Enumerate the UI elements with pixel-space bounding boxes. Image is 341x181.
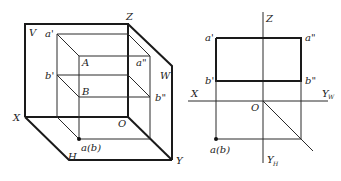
label-W: W (160, 70, 171, 81)
label-b-prime: b' (45, 70, 54, 81)
point-ab-right (214, 137, 218, 141)
v-plane-outline (25, 24, 128, 117)
label-a-prime-right: a' (205, 32, 214, 43)
label-Yw-sub: W (328, 93, 335, 100)
label-Y: Y (176, 155, 184, 166)
label-a-dprime: a" (136, 57, 147, 68)
line-to-b-dprime (128, 75, 150, 97)
label-b-dprime: b" (155, 92, 166, 103)
label-Z: Z (125, 11, 134, 22)
projection-diagram: Z V a' A a" W b' B b" X O a(b) H Y Z a' … (0, 0, 341, 181)
label-B: B (81, 86, 89, 97)
label-O-right: O (251, 102, 259, 113)
label-ab: a(b) (81, 142, 101, 153)
label-A: A (81, 57, 89, 68)
point-ab (77, 137, 81, 141)
left-3d-view: Z V a' A a" W b' B b" X O a(b) H Y (12, 11, 184, 166)
label-H: H (67, 151, 77, 162)
label-X-right: X (190, 88, 199, 99)
projection-rect (216, 38, 301, 81)
construction-diagonal (263, 101, 313, 151)
label-ab-right: a(b) (210, 144, 230, 155)
label-X: X (12, 112, 21, 123)
label-b-dprime-right: b" (305, 75, 316, 86)
label-a-prime: a' (45, 28, 54, 39)
label-Yh-sub: H (272, 160, 279, 167)
label-Z-right: Z (265, 13, 274, 24)
label-a-dprime-right: a" (305, 32, 316, 43)
line-b-prime-B (57, 75, 79, 97)
label-V: V (29, 27, 38, 38)
label-O: O (118, 118, 126, 129)
line-to-a-dprime-top (128, 34, 150, 56)
line-a-prime-A (57, 34, 79, 56)
label-b-prime-right: b' (205, 75, 214, 86)
line-x-foot-to-ab (57, 117, 79, 139)
right-orthographic-view: Z a' a" b' b" X Y W O a(b) Y H (188, 12, 335, 167)
